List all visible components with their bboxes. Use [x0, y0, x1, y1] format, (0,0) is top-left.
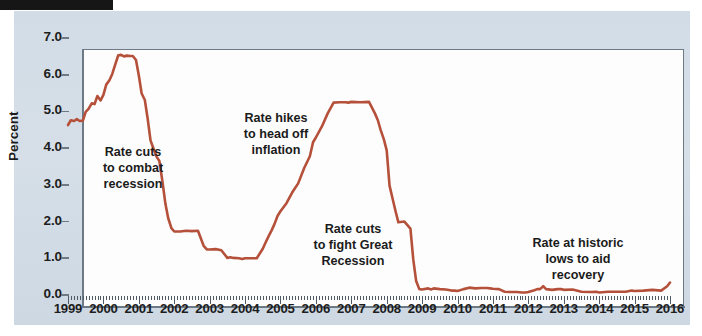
x-minor-tick: [198, 296, 199, 300]
x-minor-tick: [487, 296, 488, 300]
x-minor-tick: [452, 296, 453, 300]
x-minor-tick: [629, 296, 630, 300]
x-minor-tick: [490, 296, 491, 300]
x-minor-tick: [496, 296, 497, 300]
x-tick-label: 2003: [190, 301, 230, 316]
x-minor-tick: [168, 296, 169, 300]
x-minor-tick: [204, 296, 205, 300]
x-minor-tick: [260, 296, 261, 300]
x-minor-tick: [325, 296, 326, 300]
x-minor-tick: [537, 296, 538, 300]
x-minor-tick: [213, 296, 214, 300]
x-minor-tick: [416, 296, 417, 300]
y-tick-label: 2.0: [18, 213, 62, 228]
x-tick-label: 2004: [225, 301, 265, 316]
x-minor-tick: [266, 296, 267, 300]
x-minor-tick: [434, 296, 435, 300]
x-minor-tick: [638, 296, 639, 300]
x-minor-tick: [154, 296, 155, 300]
x-minor-tick: [328, 296, 329, 300]
figure-corner-tab: [0, 0, 113, 10]
x-minor-tick: [157, 296, 158, 300]
x-minor-tick: [115, 296, 116, 300]
x-minor-tick: [437, 296, 438, 300]
figure-root: Percent 0.01.02.03.04.05.06.07.0 1999200…: [0, 0, 702, 336]
x-minor-tick: [404, 296, 405, 300]
y-tick-label: 5.0: [18, 102, 62, 117]
x-minor-tick: [289, 296, 290, 300]
x-tick-label: 2008: [367, 301, 407, 316]
x-minor-tick: [646, 296, 647, 300]
x-minor-tick: [319, 296, 320, 300]
x-minor-tick: [378, 296, 379, 300]
x-minor-tick: [298, 296, 299, 300]
x-minor-tick: [251, 296, 252, 300]
x-minor-tick: [576, 296, 577, 300]
x-tick-label: 2001: [119, 301, 159, 316]
x-minor-tick: [227, 296, 228, 300]
x-minor-tick: [463, 296, 464, 300]
x-minor-tick: [124, 296, 125, 300]
x-minor-tick: [428, 296, 429, 300]
x-minor-tick: [230, 296, 231, 300]
x-minor-tick: [337, 296, 338, 300]
x-minor-tick: [643, 296, 644, 300]
x-minor-tick: [248, 296, 249, 300]
x-minor-tick: [419, 296, 420, 300]
x-minor-tick: [304, 296, 305, 300]
x-minor-tick: [431, 296, 432, 300]
x-minor-tick: [295, 296, 296, 300]
x-minor-tick: [322, 296, 323, 300]
x-minor-tick: [145, 296, 146, 300]
x-minor-tick: [292, 296, 293, 300]
x-minor-tick: [581, 296, 582, 300]
x-minor-tick: [301, 296, 302, 300]
x-minor-tick: [667, 296, 668, 300]
x-minor-tick: [440, 296, 441, 300]
x-minor-tick: [505, 296, 506, 300]
x-minor-tick: [106, 296, 107, 300]
x-minor-tick: [596, 296, 597, 300]
x-minor-tick: [269, 296, 270, 300]
x-minor-tick: [514, 296, 515, 300]
x-minor-tick: [593, 296, 594, 300]
x-minor-tick: [307, 296, 308, 300]
x-minor-tick: [567, 296, 568, 300]
x-tick-label: 2000: [83, 301, 123, 316]
x-minor-tick: [221, 296, 222, 300]
x-minor-tick: [626, 296, 627, 300]
x-minor-tick: [112, 296, 113, 300]
x-minor-tick: [283, 296, 284, 300]
x-minor-tick: [133, 296, 134, 300]
x-minor-tick: [455, 296, 456, 300]
x-minor-tick: [446, 296, 447, 300]
x-minor-tick: [142, 296, 143, 300]
x-minor-tick: [207, 296, 208, 300]
x-minor-tick: [127, 296, 128, 300]
x-minor-tick: [236, 296, 237, 300]
x-minor-tick: [396, 296, 397, 300]
x-minor-tick: [109, 296, 110, 300]
y-tick-label: 7.0: [18, 29, 62, 44]
x-minor-tick: [632, 296, 633, 300]
x-minor-tick: [151, 296, 152, 300]
annotation-rate-historic-lows: Rate at historic lows to aid recovery: [526, 235, 630, 283]
x-minor-tick: [587, 296, 588, 300]
x-minor-tick: [469, 296, 470, 300]
x-minor-tick: [98, 296, 99, 300]
x-minor-tick: [534, 296, 535, 300]
x-minor-tick: [522, 296, 523, 300]
x-minor-tick: [555, 296, 556, 300]
x-minor-tick: [86, 296, 87, 300]
x-minor-tick: [348, 296, 349, 300]
y-tick-label: 3.0: [18, 176, 62, 191]
x-minor-tick: [339, 296, 340, 300]
x-minor-tick: [590, 296, 591, 300]
x-minor-tick: [310, 296, 311, 300]
x-minor-tick: [531, 296, 532, 300]
x-minor-tick: [623, 296, 624, 300]
x-minor-tick: [224, 296, 225, 300]
x-minor-tick: [92, 296, 93, 300]
x-minor-tick: [517, 296, 518, 300]
x-minor-tick: [183, 296, 184, 300]
